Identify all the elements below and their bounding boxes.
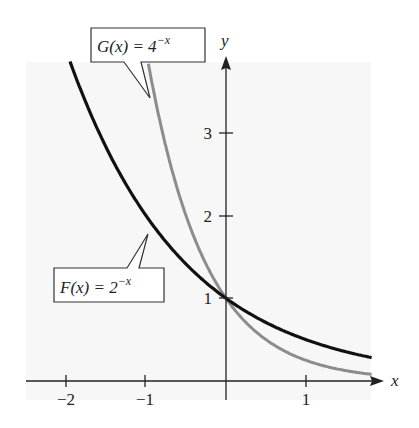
x-tick-label-m1: −1 <box>136 390 154 409</box>
y-tick-label-3: 3 <box>204 124 213 143</box>
x-tick-label-1: 1 <box>302 390 311 409</box>
y-tick-label-2: 2 <box>204 207 213 226</box>
exponential-chart: −2 −1 1 1 2 3 x y G(x) = 4−x F(x) = 2−x <box>0 0 419 428</box>
x-tick-label-m2: −2 <box>57 390 75 409</box>
x-axis-label: x <box>390 371 399 390</box>
y-axis-label: y <box>219 31 229 50</box>
x-axis-arrow-icon <box>370 376 384 386</box>
plot-background <box>26 62 371 400</box>
y-tick-label-1: 1 <box>204 289 213 308</box>
